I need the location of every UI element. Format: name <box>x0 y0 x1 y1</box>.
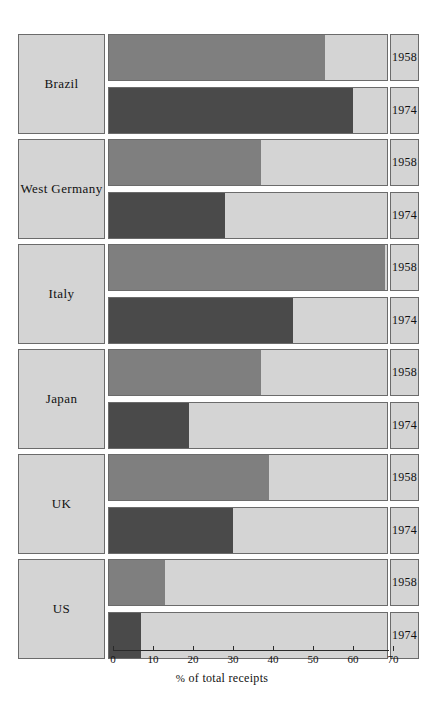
bar-track <box>108 34 388 81</box>
bar-track <box>108 402 388 449</box>
bar-fill <box>109 193 225 238</box>
bar-row: 1974 <box>108 192 419 239</box>
year-label: 1974 <box>392 103 417 118</box>
year-label-box: 1958 <box>390 244 419 291</box>
bar-fill <box>109 245 385 290</box>
country-label: Brazil <box>44 76 78 92</box>
bar-fill <box>109 298 293 343</box>
country-group: UK19581974 <box>18 454 419 554</box>
year-label: 1958 <box>392 470 417 485</box>
x-axis-tick <box>113 646 114 651</box>
country-label-box: Italy <box>18 244 105 344</box>
x-axis-tick <box>193 646 194 651</box>
x-axis-tick-label: 20 <box>188 653 199 665</box>
bar-row: 1958 <box>108 244 419 291</box>
year-label: 1958 <box>392 365 417 380</box>
year-label-box: 1958 <box>390 454 419 501</box>
year-label: 1958 <box>392 575 417 590</box>
bar-row: 1958 <box>108 559 419 606</box>
x-axis-tick-label: 40 <box>268 653 279 665</box>
bar-rows: 19581974 <box>108 454 419 554</box>
year-label: 1974 <box>392 628 417 643</box>
bar-row: 1958 <box>108 139 419 186</box>
country-label: Japan <box>46 391 78 407</box>
year-label: 1958 <box>392 260 417 275</box>
bar-track <box>108 87 388 134</box>
bar-fill <box>109 35 325 80</box>
year-label-box: 1974 <box>390 87 419 134</box>
bar-rows: 19581974 <box>108 559 419 659</box>
bar-rows: 19581974 <box>108 34 419 134</box>
country-group: Brazil19581974 <box>18 34 419 134</box>
x-axis-tick <box>153 646 154 651</box>
bar-rows: 19581974 <box>108 244 419 344</box>
bar-row: 1958 <box>108 349 419 396</box>
percent-symbol: % <box>176 672 185 684</box>
country-label-box: Brazil <box>18 34 105 134</box>
year-label-box: 1958 <box>390 34 419 81</box>
bar-track <box>108 349 388 396</box>
country-label: Italy <box>49 286 75 302</box>
year-label-box: 1974 <box>390 297 419 344</box>
bar-fill <box>109 508 233 553</box>
country-label-box: Japan <box>18 349 105 449</box>
bar-track <box>108 559 388 606</box>
country-label-box: West Germany <box>18 139 105 239</box>
year-label-box: 1958 <box>390 139 419 186</box>
x-axis: 010203040506070 % of total receipts <box>0 645 444 705</box>
year-label-box: 1974 <box>390 402 419 449</box>
x-axis-line <box>113 650 389 651</box>
country-label-box: US <box>18 559 105 659</box>
bar-row: 1974 <box>108 402 419 449</box>
x-axis-tick-label: 60 <box>348 653 359 665</box>
x-axis-tick-label: 30 <box>228 653 239 665</box>
bar-fill <box>109 560 165 605</box>
bar-row: 1974 <box>108 507 419 554</box>
x-axis-tick <box>233 646 234 651</box>
bar-rows: 19581974 <box>108 139 419 239</box>
year-label: 1958 <box>392 50 417 65</box>
bar-fill <box>109 350 261 395</box>
bar-row: 1958 <box>108 34 419 81</box>
country-group: US19581974 <box>18 559 419 659</box>
bar-track <box>108 192 388 239</box>
year-label-box: 1974 <box>390 192 419 239</box>
year-label: 1958 <box>392 155 417 170</box>
x-axis-tick <box>353 646 354 651</box>
bar-rows: 19581974 <box>108 349 419 449</box>
country-label: US <box>53 601 70 617</box>
country-label: West Germany <box>20 181 102 197</box>
bar-track <box>108 454 388 501</box>
x-axis-tick-label: 50 <box>308 653 319 665</box>
year-label: 1974 <box>392 523 417 538</box>
bar-fill <box>109 88 353 133</box>
year-label-box: 1974 <box>390 507 419 554</box>
x-axis-title: % of total receipts <box>0 671 444 686</box>
bar-fill <box>109 140 261 185</box>
bar-fill <box>109 455 269 500</box>
x-axis-tick-label: 0 <box>110 653 116 665</box>
country-group: Italy19581974 <box>18 244 419 344</box>
bar-track <box>108 297 388 344</box>
year-label: 1974 <box>392 313 417 328</box>
bar-row: 1974 <box>108 87 419 134</box>
year-label: 1974 <box>392 208 417 223</box>
country-label-box: UK <box>18 454 105 554</box>
x-axis-tick <box>313 646 314 651</box>
country-group: Japan19581974 <box>18 349 419 449</box>
x-axis-title-text: of total receipts <box>185 671 268 685</box>
bar-track <box>108 507 388 554</box>
x-axis-tick <box>393 646 394 651</box>
country-label: UK <box>52 496 72 512</box>
x-axis-tick <box>273 646 274 651</box>
bar-fill <box>109 403 189 448</box>
bar-track <box>108 244 388 291</box>
year-label-box: 1958 <box>390 559 419 606</box>
x-axis-tick-label: 70 <box>388 653 399 665</box>
bar-row: 1974 <box>108 297 419 344</box>
bar-row: 1958 <box>108 454 419 501</box>
year-label-box: 1958 <box>390 349 419 396</box>
x-axis-tick-label: 10 <box>148 653 159 665</box>
year-label: 1974 <box>392 418 417 433</box>
bar-chart: Brazil19581974West Germany19581974Italy1… <box>0 0 444 711</box>
